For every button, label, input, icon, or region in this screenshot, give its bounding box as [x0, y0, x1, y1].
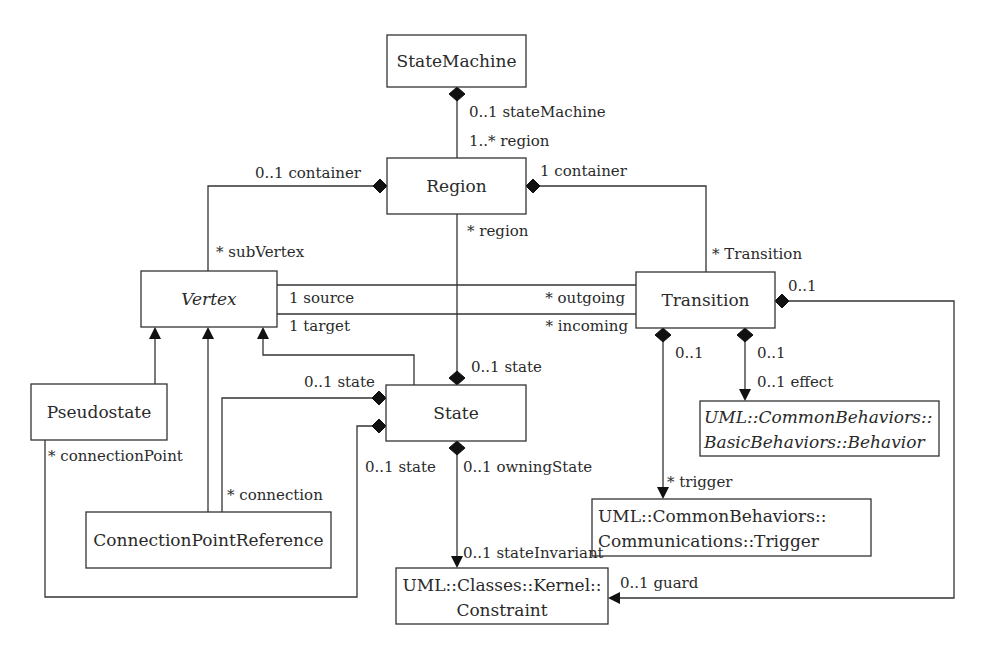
- role-label: 0..1 stateInvariant: [463, 544, 604, 562]
- class-name-line2: Constraint: [456, 600, 547, 620]
- class-name-line2: Communications::Trigger: [598, 531, 820, 551]
- composition-diamond-transition-trigger: [655, 328, 671, 342]
- class-name-line2: BasicBehaviors::Behavior: [703, 432, 925, 452]
- class-name-line1: UML::CommonBehaviors::: [598, 506, 826, 526]
- role-label: 0..1 container: [255, 164, 362, 182]
- class-name: Region: [426, 176, 486, 196]
- navigability-arrow-icon: [451, 556, 463, 568]
- generalization-arrow-icon: [202, 327, 214, 339]
- role-label: 0..1 state: [304, 373, 375, 391]
- navigability-arrow-icon: [608, 592, 620, 604]
- role-label: 0..1: [757, 344, 786, 362]
- class-name-line1: UML::CommonBehaviors::: [704, 407, 932, 427]
- class-name: StateMachine: [397, 51, 517, 71]
- uml-state-machine-diagram: StateMachine Region Vertex Transition Ps…: [0, 0, 986, 652]
- class-constraint: UML::Classes::Kernel:: Constraint: [396, 568, 608, 624]
- class-name: Vertex: [181, 289, 237, 309]
- composition-diamond-statemachine: [449, 87, 465, 101]
- role-label: 0..1 effect: [757, 373, 833, 391]
- role-label: 0..1 owningState: [463, 458, 592, 476]
- class-statemachine: StateMachine: [387, 35, 526, 87]
- role-label: * subVertex: [216, 243, 305, 261]
- composition-diamond-transition-effect: [737, 328, 753, 342]
- role-label: * region: [467, 222, 529, 240]
- role-label: * connection: [227, 486, 323, 504]
- composition-diamond-state-top: [449, 371, 465, 385]
- role-label: * incoming: [546, 317, 629, 335]
- role-label: * trigger: [667, 473, 733, 491]
- class-name: State: [433, 403, 479, 423]
- composition-diamond-region-right: [526, 179, 540, 193]
- role-label: * Transition: [712, 245, 802, 263]
- role-label: 1 container: [540, 162, 628, 180]
- role-label: 0..1 state: [471, 358, 542, 376]
- role-label: 1 source: [289, 289, 354, 307]
- role-label: 1..* region: [469, 132, 550, 150]
- class-state: State: [386, 385, 526, 441]
- role-label: * outgoing: [545, 289, 625, 307]
- class-name: ConnectionPointReference: [93, 530, 323, 550]
- role-label: 0..1 stateMachine: [469, 103, 606, 121]
- class-pseudostate: Pseudostate: [31, 384, 167, 440]
- role-label: 0..1 state: [365, 458, 436, 476]
- role-label: 0..1 guard: [620, 574, 699, 592]
- composition-diamond-state-bottom: [449, 441, 465, 455]
- generalization-arrow-icon: [257, 327, 269, 339]
- class-name: Transition: [661, 290, 749, 310]
- role-label: * connectionPoint: [48, 447, 183, 465]
- class-connection-point-reference: ConnectionPointReference: [86, 512, 331, 568]
- role-label: 1 target: [289, 317, 350, 335]
- composition-diamond-state-left-upper: [372, 391, 386, 405]
- class-name-line1: UML::Classes::Kernel::: [402, 575, 601, 595]
- role-label: 0..1: [675, 344, 704, 362]
- class-region: Region: [387, 158, 526, 214]
- class-vertex: Vertex: [141, 271, 277, 327]
- association-region-transition: [539, 186, 706, 272]
- composition-diamond-transition-guard: [775, 294, 789, 308]
- composition-diamond-region-left: [373, 179, 387, 193]
- role-label: 0..1: [788, 277, 817, 295]
- generalization-arrow-icon: [149, 327, 161, 339]
- navigability-arrow-icon: [739, 389, 751, 401]
- class-behavior: UML::CommonBehaviors:: BasicBehaviors::B…: [700, 401, 939, 456]
- class-transition: Transition: [636, 272, 775, 328]
- class-trigger: UML::CommonBehaviors:: Communications::T…: [592, 499, 871, 556]
- composition-diamond-state-left-lower: [372, 419, 386, 433]
- class-name: Pseudostate: [47, 402, 151, 422]
